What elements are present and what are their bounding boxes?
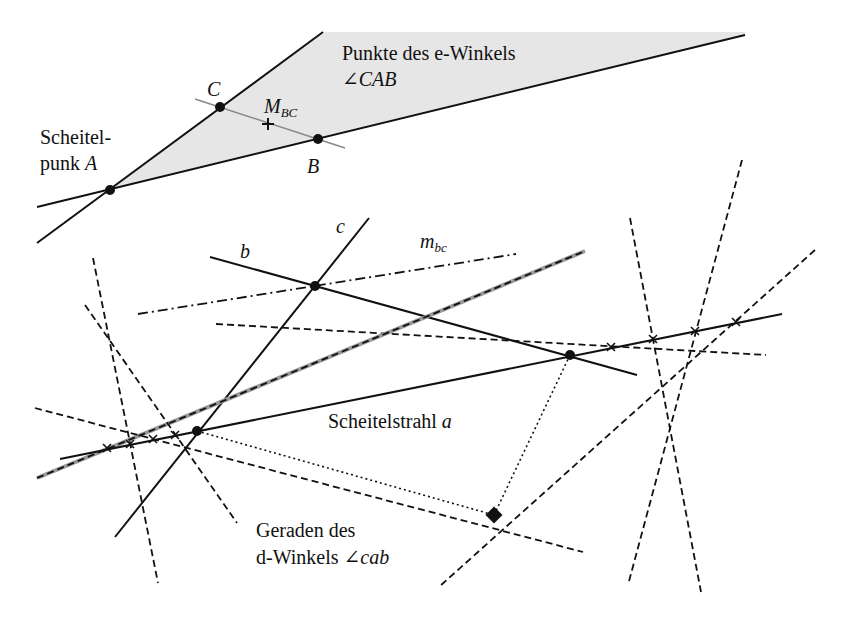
label-M-BC: MBC bbox=[264, 95, 297, 124]
dotted-line-1 bbox=[197, 431, 494, 515]
dashed-line-1 bbox=[93, 258, 158, 583]
dashed-line-upper bbox=[216, 324, 766, 355]
vertex-label-line1: Scheitel- bbox=[40, 126, 111, 148]
point-bc bbox=[310, 281, 320, 291]
vertex-label-line2: punk A bbox=[40, 152, 97, 174]
ray-a-label: Scheitelstrahl a bbox=[328, 410, 452, 432]
dotted-line-2 bbox=[494, 355, 570, 515]
dashed-line-4 bbox=[440, 250, 815, 586]
label-C: C bbox=[207, 78, 220, 100]
point-C bbox=[215, 102, 225, 112]
d-angle-label-line1: Geraden des bbox=[256, 519, 355, 541]
point-A bbox=[105, 185, 115, 195]
label-m-bc: mbc bbox=[420, 230, 447, 259]
geometry-figure bbox=[0, 0, 846, 617]
label-c: c bbox=[336, 215, 345, 237]
dashed-line-5 bbox=[628, 160, 742, 585]
region-title: Punkte des e-Winkels bbox=[342, 42, 516, 64]
point-B bbox=[313, 134, 323, 144]
point-vertex-lower bbox=[192, 426, 202, 436]
ray-a bbox=[60, 314, 782, 459]
d-angle-label-line2: d-Winkels ∠cab bbox=[256, 546, 389, 568]
label-B: B bbox=[307, 155, 319, 177]
region-angle: ∠CAB bbox=[342, 68, 397, 90]
label-b: b bbox=[240, 240, 250, 262]
diamond-marker-icon bbox=[486, 507, 503, 524]
diagram-canvas: Punkte des e-Winkels ∠CAB Scheitel- punk… bbox=[0, 0, 846, 617]
point-ab bbox=[565, 350, 575, 360]
